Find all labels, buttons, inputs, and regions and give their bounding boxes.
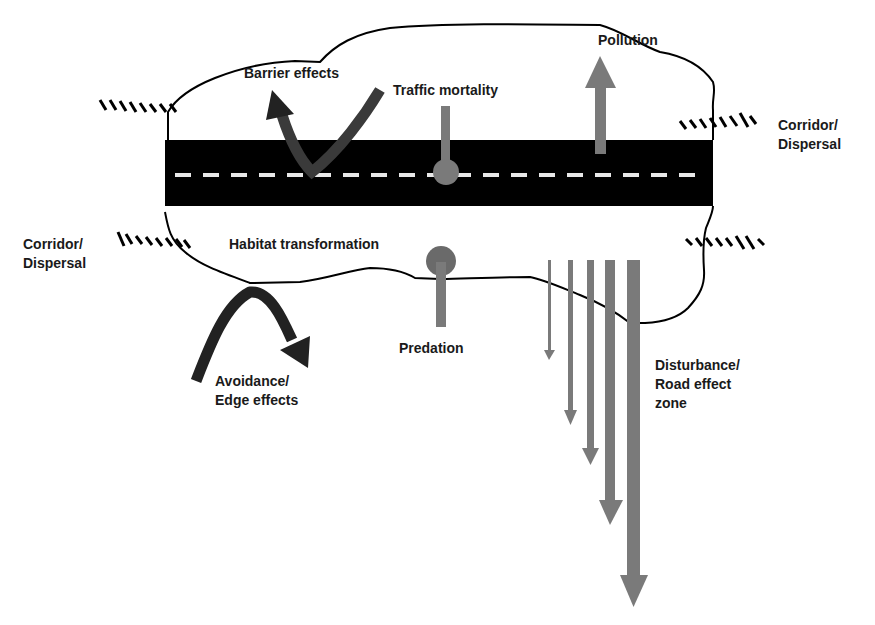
label-barrier-effects: Barrier effects [244, 64, 339, 82]
corridor-hatch-lower-left [118, 232, 190, 248]
corridor-hatch-upper-right [680, 113, 756, 129]
label-habitat-transformation: Habitat transformation [229, 235, 379, 253]
label-avoidance-2: Edge effects [215, 391, 298, 409]
label-predation: Predation [399, 339, 464, 357]
label-corridor-left-1: Corridor/ [23, 235, 83, 253]
corridor-hatch-lower-right [686, 236, 764, 249]
corridor-hatch-upper-left [100, 100, 176, 112]
label-avoidance-1: Avoidance/ [215, 372, 289, 390]
label-corridor-right-1: Corridor/ [778, 116, 838, 134]
predation-marker [426, 246, 456, 327]
label-corridor-left-2: Dispersal [23, 254, 86, 272]
avoidance-arrow [196, 292, 310, 381]
label-disturbance-3: zone [655, 394, 687, 412]
pollution-arrow [585, 56, 616, 154]
label-pollution: Pollution [598, 31, 658, 49]
disturbance-arrows [544, 260, 648, 607]
label-traffic-mortality: Traffic mortality [393, 81, 498, 99]
label-disturbance-1: Disturbance/ [655, 356, 740, 374]
label-disturbance-2: Road effect [655, 375, 731, 393]
label-corridor-right-2: Dispersal [778, 135, 841, 153]
